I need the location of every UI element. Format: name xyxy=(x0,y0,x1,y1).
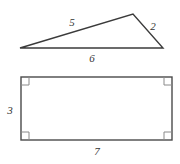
geometry-figure: 5 2 6 3 7 xyxy=(0,0,180,164)
rectangle-width-label: 7 xyxy=(94,146,100,157)
right-angle-mark-bottom-right xyxy=(164,132,172,140)
right-angle-mark-bottom-left xyxy=(21,132,29,140)
rectangle-shape xyxy=(21,77,172,140)
triangle-shape xyxy=(20,14,163,48)
triangle-side-left-label: 5 xyxy=(69,17,75,28)
rectangle-height-label: 3 xyxy=(7,105,13,116)
triangle-outline xyxy=(20,14,163,48)
right-angle-mark-top-left xyxy=(21,77,29,85)
right-angle-mark-top-right xyxy=(164,77,172,85)
triangle-side-right-label: 2 xyxy=(150,21,156,32)
rectangle-outline xyxy=(21,77,172,140)
triangle-side-base-label: 6 xyxy=(89,53,95,64)
